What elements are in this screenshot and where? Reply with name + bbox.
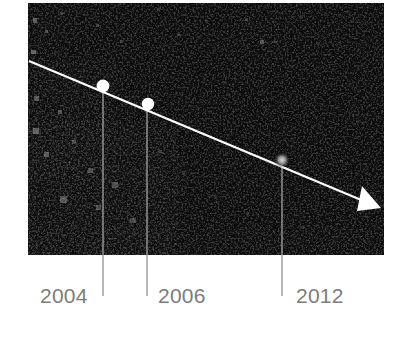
tick-label-2006: 2006 [158,285,206,306]
panel-grain-bottom-band [28,228,384,255]
dark-photo-panel [28,3,384,255]
tick-label-2004: 2004 [40,285,88,306]
data-point-2012 [274,152,290,168]
trend-chart-figure: 2004 2006 2012 [0,0,404,339]
data-point-2004 [97,80,110,93]
tick-label-2012: 2012 [296,285,344,306]
panel-grain-left [28,60,118,180]
data-point-2006 [142,98,154,110]
